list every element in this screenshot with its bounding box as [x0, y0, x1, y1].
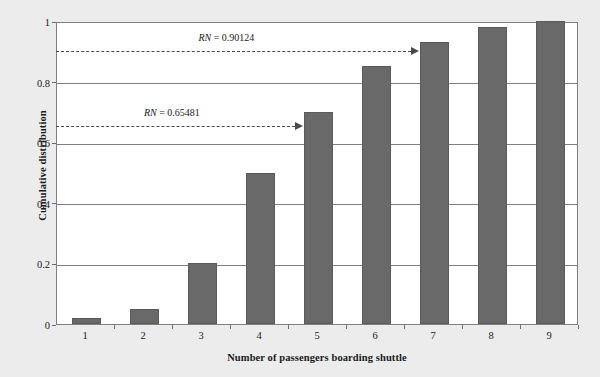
- cumulative-distribution-chart: Cumulative distribution 00.20.40.60.81 1…: [0, 0, 600, 377]
- bar: [72, 318, 101, 324]
- bar: [246, 173, 275, 325]
- plot-area: [56, 22, 578, 325]
- x-tick-label: 9: [546, 330, 551, 341]
- x-tick-label: 3: [198, 330, 203, 341]
- x-axis-title: Number of passengers boarding shuttle: [56, 352, 578, 363]
- x-tick-mark: [172, 325, 173, 329]
- annotation-arrow: [56, 122, 303, 131]
- y-tick-label: 0.2: [37, 259, 50, 270]
- x-tick-mark: [288, 325, 289, 329]
- bar: [362, 66, 391, 324]
- x-tick-label: 1: [82, 330, 87, 341]
- annotation-arrowhead-icon: [411, 47, 419, 55]
- bar: [478, 27, 507, 324]
- x-tick-label: 2: [140, 330, 145, 341]
- x-tick-label: 7: [430, 330, 435, 341]
- x-tick-label: 8: [488, 330, 493, 341]
- x-tick-mark: [114, 325, 115, 329]
- bar: [304, 112, 333, 324]
- y-axis-ticks: 00.20.40.60.81: [0, 22, 56, 325]
- x-tick-mark: [520, 325, 521, 329]
- y-tick-label: 0: [45, 320, 50, 331]
- x-tick-mark: [404, 325, 405, 329]
- y-tick-label: 0.6: [37, 138, 50, 149]
- x-tick-mark: [578, 325, 579, 329]
- bar: [188, 263, 217, 324]
- annotation-label: RN = 0.65481: [144, 107, 200, 118]
- y-tick-label: 1: [45, 17, 50, 28]
- x-tick-label: 5: [314, 330, 319, 341]
- annotation-arrowhead-icon: [295, 122, 303, 130]
- y-tick-label: 0.4: [37, 198, 50, 209]
- x-tick-mark: [230, 325, 231, 329]
- annotation-dashed-line: [56, 126, 295, 127]
- x-tick-label: 6: [372, 330, 377, 341]
- x-tick-mark: [346, 325, 347, 329]
- bar: [420, 42, 449, 324]
- x-tick-label: 4: [256, 330, 261, 341]
- annotation-arrow: [56, 47, 419, 56]
- y-tick-label: 0.8: [37, 77, 50, 88]
- bar: [536, 21, 565, 324]
- annotation-dashed-line: [56, 51, 411, 52]
- annotation-label: RN = 0.90124: [198, 32, 254, 43]
- x-tick-mark: [462, 325, 463, 329]
- bar: [130, 309, 159, 324]
